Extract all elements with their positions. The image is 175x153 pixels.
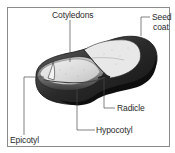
seed-illustration (0, 0, 175, 153)
seed-coat-leader (141, 17, 150, 36)
label-seed-coat-line2: coat (153, 23, 169, 32)
label-epicotyl: Epicotyl (10, 136, 39, 145)
label-seed-coat-line1: Seed (152, 13, 171, 22)
label-cotyledons: Cotyledons (52, 11, 94, 20)
label-radicle: Radicle (117, 104, 145, 113)
label-hypocotyl: Hypocotyl (96, 126, 132, 135)
